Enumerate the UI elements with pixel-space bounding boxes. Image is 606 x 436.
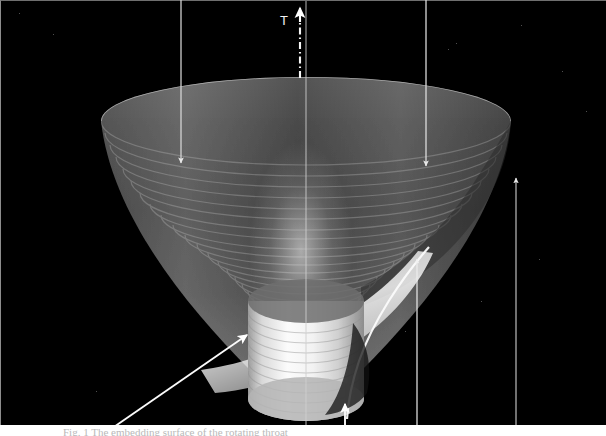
figure-stage: T Fig. 1 The embedding surface of the ro…: [0, 0, 606, 436]
axis-label-T: T: [280, 14, 288, 27]
symmetry-axis-line: [1, 1, 606, 425]
figure-caption-text: Fig. 1 The embedding surface of the rota…: [63, 426, 288, 436]
figure-plate: [0, 0, 606, 425]
figure-caption: Fig. 1 The embedding surface of the rota…: [0, 425, 606, 436]
